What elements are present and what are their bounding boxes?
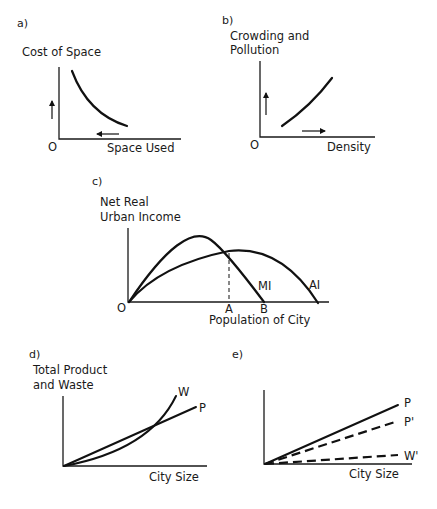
panel-e-w-prime-line bbox=[265, 455, 398, 464]
panel-d-w-curve bbox=[64, 396, 176, 466]
panel-a-xlabel: Space Used bbox=[107, 141, 174, 155]
panel-d-p-label: P bbox=[199, 401, 206, 415]
panel-d-xlabel: City Size bbox=[149, 470, 199, 484]
panel-b-crowding-curve bbox=[282, 78, 332, 126]
panel-a: a) Cost of Space O Space Used bbox=[17, 17, 181, 155]
panel-c-ylabel-line1: Net Real bbox=[100, 195, 149, 209]
panel-d-axes bbox=[63, 396, 207, 466]
panel-e-xlabel: City Size bbox=[349, 467, 399, 481]
panel-c: c) Net Real Urban Income MI AI O A B Pop… bbox=[92, 175, 329, 327]
panel-c-origin: O bbox=[117, 301, 126, 315]
panel-b-xlabel: Density bbox=[327, 140, 371, 154]
panel-c-label: c) bbox=[92, 175, 102, 188]
panel-c-xlabel: Population of City bbox=[209, 313, 311, 327]
panel-d-ylabel-line1: Total Product bbox=[32, 363, 108, 377]
panel-b-label: b) bbox=[222, 14, 233, 27]
panel-e: e) P P' W' City Size bbox=[232, 348, 419, 481]
figure-canvas: a) Cost of Space O Space Used b) Crowdin… bbox=[0, 0, 437, 509]
panel-e-p-line bbox=[265, 405, 398, 464]
panel-e-axes bbox=[264, 390, 412, 464]
panel-a-label: a) bbox=[17, 17, 28, 30]
panel-d-p-line bbox=[64, 407, 196, 466]
panel-c-mi-label: MI bbox=[258, 279, 271, 293]
panel-e-w-prime-label: W' bbox=[404, 449, 419, 463]
panel-a-cost-curve bbox=[72, 71, 127, 126]
panel-c-ai-curve bbox=[129, 250, 318, 303]
panel-e-p-prime-label: P' bbox=[404, 415, 414, 429]
panel-c-ylabel-line2: Urban Income bbox=[100, 210, 181, 224]
panel-a-origin: O bbox=[48, 140, 57, 154]
panel-d: d) Total Product and Waste W P City Size bbox=[29, 348, 207, 484]
panel-b-axes bbox=[260, 61, 375, 137]
panel-e-label: e) bbox=[232, 348, 243, 361]
panel-d-label: d) bbox=[29, 348, 40, 361]
panel-b-origin: O bbox=[250, 138, 259, 152]
panel-a-ylabel: Cost of Space bbox=[22, 45, 101, 59]
panel-a-axes bbox=[59, 67, 181, 139]
panel-e-p-prime-line bbox=[265, 421, 398, 464]
panel-b: b) Crowding and Pollution O Density bbox=[222, 14, 375, 154]
panel-b-ylabel-line2: Pollution bbox=[230, 43, 279, 57]
panel-c-mi-curve bbox=[129, 236, 264, 302]
panel-e-p-label: P bbox=[404, 396, 411, 410]
panel-b-ylabel-line1: Crowding and bbox=[230, 29, 309, 43]
panel-d-w-label: W bbox=[178, 385, 189, 399]
panel-d-ylabel-line2: and Waste bbox=[33, 378, 94, 392]
panel-c-ai-label: AI bbox=[309, 278, 320, 292]
